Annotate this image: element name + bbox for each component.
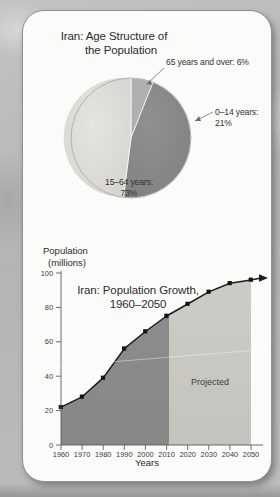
pie-label-0-14-line1: 0–14 years: (215, 107, 258, 118)
y-tick-0: 0 (49, 441, 53, 450)
pie-label-15-64-line1: 15–64 years: (91, 177, 167, 188)
pie-label-15-64: 15–64 years: 73% (91, 177, 167, 198)
pie-label-15-64-line2: 73% (91, 188, 167, 199)
x-axis-title: Years (23, 457, 271, 468)
y-tick-100: 100 (41, 269, 53, 278)
y-tick-20: 20 (45, 406, 53, 415)
pie-label-0-14: 0–14 years: 21% (215, 107, 258, 128)
pie-chart-panel: Iran: Age Structure of the Population (23, 11, 271, 233)
line-chart-graphic: Projected (23, 233, 271, 481)
line-end-arrowhead (259, 274, 268, 282)
y-axis-ticks (56, 273, 61, 445)
pie-label-0-14-line2: 21% (215, 118, 258, 129)
y-tick-80: 80 (45, 303, 53, 312)
y-tick-40: 40 (45, 372, 53, 381)
pie-label-65-and-over: 65 years and over: 6% (166, 57, 249, 68)
figure-card: Iran: Age Structure of the Population (22, 10, 272, 482)
y-axis-tick-labels: 0 20 40 60 80 100 (41, 269, 53, 450)
projected-region-label: Projected (191, 377, 229, 387)
line-chart-panel: Population (millions) Iran: Population G… (23, 233, 271, 481)
y-tick-60: 60 (45, 337, 53, 346)
